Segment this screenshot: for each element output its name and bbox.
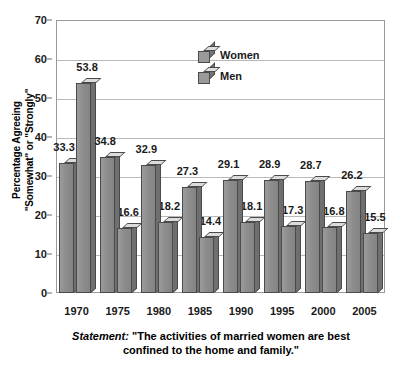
legend-cube-icon: [198, 46, 215, 63]
y-tick-label: 60: [35, 53, 47, 65]
gridline: [57, 216, 384, 217]
y-tick-mark: [47, 254, 52, 255]
x-tick-label-2005: 2005: [352, 305, 376, 317]
gridline: [57, 177, 384, 178]
y-tick-label: 50: [35, 92, 47, 104]
legend-cube-icon: [198, 67, 215, 84]
x-tick-label-1980: 1980: [147, 305, 171, 317]
gridline: [57, 99, 384, 100]
chart-caption: Statement: "The activities of married wo…: [36, 329, 386, 357]
y-tick-label: 10: [35, 248, 47, 260]
caption-line-2: confined to the home and family.": [123, 344, 299, 356]
caption-keyword: Statement:: [72, 330, 129, 342]
legend-cube-front-face: [198, 72, 210, 84]
y-tick-mark: [47, 176, 52, 177]
x-tick-label-1990: 1990: [229, 305, 253, 317]
y-tick-mark: [47, 20, 52, 21]
y-tick-mark: [47, 215, 52, 216]
x-tick-label-1970: 1970: [64, 305, 88, 317]
legend-label: Men: [220, 70, 242, 82]
x-tick-label-1985: 1985: [188, 305, 212, 317]
y-tick-label: 20: [35, 209, 47, 221]
legend-label: Women: [220, 49, 260, 61]
legend-cube-front-face: [198, 51, 210, 63]
legend-item-women: Women: [198, 44, 288, 65]
y-tick-label: 70: [35, 14, 47, 26]
y-tick-mark: [47, 59, 52, 60]
y-tick-mark: [47, 137, 52, 138]
y-axis-title-line-1: Percentage Agreeing: [10, 101, 23, 199]
y-tick-label: 30: [35, 170, 47, 182]
gridline: [57, 255, 384, 256]
y-tick-label: 40: [35, 131, 47, 143]
y-axis-tick-labels: 010203040506070: [28, 14, 52, 306]
gridline: [57, 138, 384, 139]
x-tick-label-1975: 1975: [105, 305, 129, 317]
caption-line-1: "The activities of married women are bes…: [129, 330, 350, 342]
legend-item-men: Men: [198, 65, 288, 86]
x-axis-tick-labels: 19701975198019851990199520002005: [56, 305, 385, 321]
y-tick-mark: [47, 98, 52, 99]
chart-legend: WomenMen: [198, 44, 288, 86]
y-tick-mark: [47, 293, 52, 294]
x-tick-label-1995: 1995: [270, 305, 294, 317]
x-tick-label-2000: 2000: [311, 305, 335, 317]
